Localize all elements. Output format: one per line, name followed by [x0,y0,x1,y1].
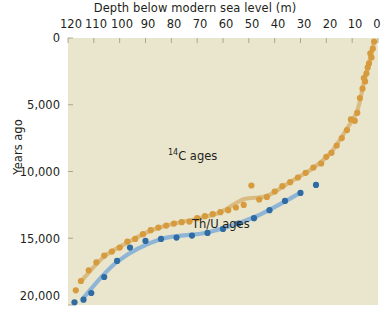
y-tick-label: 10,000 [20,165,60,179]
y-axis-title: Years ago [11,107,25,187]
y-tick-label: 15,000 [20,232,60,246]
series-label-thu: Th/U ages [192,217,250,231]
series-label-c14: 14C ages [168,148,217,163]
x-tick-label: 0 [362,17,390,31]
c14-label-text: C ages [178,149,217,163]
y-tick-label: 5,000 [27,98,60,112]
y-tick-label: 0 [53,31,60,45]
chart-figure: Depth below modern sea level (m) 120 110… [0,0,390,313]
c14-superscript: 14 [168,148,178,157]
y-tick-label: 20,000 [20,289,60,303]
